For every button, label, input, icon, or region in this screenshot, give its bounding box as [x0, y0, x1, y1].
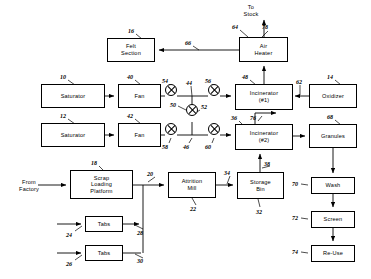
ref-48: 48	[242, 74, 248, 80]
ref-16: 16	[128, 28, 134, 34]
granules[interactable]: Granules	[309, 124, 357, 148]
to-stack-label: To Stock	[233, 4, 269, 17]
ref-30: 30	[137, 258, 143, 264]
mixer-56[interactable]	[208, 84, 220, 96]
ref-74: 74	[292, 249, 298, 255]
ref-76: 76	[250, 115, 256, 121]
ref-14: 14	[327, 74, 333, 80]
wash[interactable]: Wash	[311, 177, 355, 194]
screen[interactable]: Screen	[311, 211, 355, 228]
ref-68: 68	[327, 114, 333, 120]
ref-56: 56	[205, 78, 211, 84]
attrition-mill[interactable]: Attrition Mill	[168, 172, 216, 198]
ref-12: 12	[60, 113, 66, 119]
ref-44: 44	[186, 80, 192, 86]
ref-42: 42	[127, 113, 133, 119]
mixer-54[interactable]	[165, 84, 177, 96]
tabs-1[interactable]: Tabs	[85, 216, 123, 232]
mixer-52[interactable]	[186, 104, 198, 116]
ref-10: 10	[60, 74, 66, 80]
ref-70: 70	[292, 181, 298, 187]
ref-52: 52	[201, 104, 207, 110]
process-flow-diagram: Felt SectionAir HeaterSaturatorFanIncine…	[0, 0, 371, 279]
ref-26: 26	[66, 261, 72, 267]
ref-58: 58	[162, 144, 168, 150]
ref-24: 24	[66, 232, 72, 238]
ref-50: 50	[170, 102, 176, 108]
ref-28: 28	[137, 230, 143, 236]
ref-40: 40	[127, 74, 133, 80]
re-use[interactable]: Re-Use	[311, 245, 355, 262]
ref-62: 62	[296, 79, 302, 85]
ref-36: 36	[231, 115, 237, 121]
saturator-1[interactable]: Saturator	[41, 84, 105, 108]
ref-38: 38	[264, 161, 270, 167]
felt-section[interactable]: Felt Section	[107, 38, 155, 62]
ref-18: 18	[91, 160, 97, 166]
ref-64: 64	[232, 24, 238, 30]
tabs-2[interactable]: Tabs	[85, 245, 123, 261]
from-factory-label: From Factory	[9, 179, 49, 192]
fan-2[interactable]: Fan	[118, 123, 161, 147]
ref-46: 46	[183, 144, 189, 150]
air-heater[interactable]: Air Heater	[239, 37, 288, 62]
incinerator-1[interactable]: Incinerator (#1)	[235, 84, 293, 110]
ref-66: 66	[185, 40, 191, 46]
ref-20: 20	[147, 171, 153, 177]
ref-60: 60	[205, 144, 211, 150]
fan-1[interactable]: Fan	[118, 84, 161, 108]
ref-34: 34	[224, 170, 230, 176]
mixer-60[interactable]	[208, 123, 220, 135]
ref-78: 78	[262, 24, 268, 30]
saturator-2[interactable]: Saturator	[41, 123, 105, 147]
ref-72: 72	[292, 215, 298, 221]
mixer-58[interactable]	[165, 123, 177, 135]
storage-bin[interactable]: Storage Bin	[237, 172, 284, 199]
scrap-loading-platform[interactable]: Scrap Loading Platform	[70, 170, 133, 199]
ref-22: 22	[190, 206, 196, 212]
ref-54: 54	[162, 78, 168, 84]
oxidizer[interactable]: Oxidizer	[309, 84, 357, 108]
ref-32: 32	[256, 209, 262, 215]
incinerator-2[interactable]: Incinerator (#2)	[235, 124, 293, 150]
